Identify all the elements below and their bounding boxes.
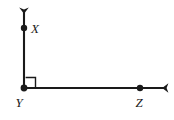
- point-x-dot: [21, 25, 27, 31]
- figure-background: [0, 0, 174, 120]
- geometry-figure: X Y Z: [0, 0, 174, 120]
- point-z-dot: [137, 85, 143, 91]
- point-z-label: Z: [135, 95, 143, 110]
- point-y-dot: [21, 85, 28, 92]
- point-x-label: X: [30, 21, 40, 36]
- figure-canvas: X Y Z: [0, 0, 174, 120]
